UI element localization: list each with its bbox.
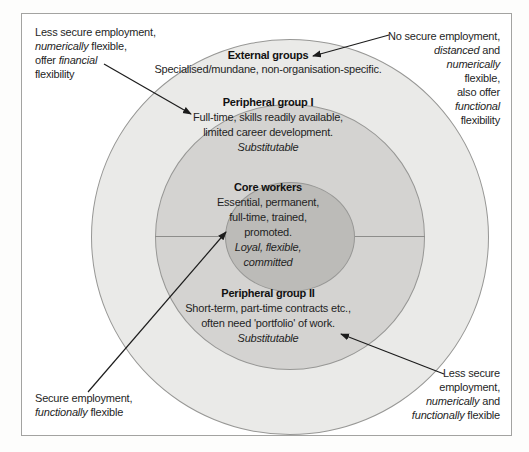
text-line: also offer — [388, 85, 500, 99]
peripheral-group-1-description: Full-time, skills readily available,limi… — [108, 110, 428, 155]
text-line: full-time, trained, — [188, 210, 348, 225]
annotation-top-right: No secure employment,distanced andnumeri… — [388, 29, 500, 127]
annotation-top-left: Less secure employment,numerically flexi… — [35, 25, 156, 81]
peripheral-group-2-block: Peripheral group II Short-term, part-tim… — [108, 286, 428, 346]
text-line: Substitutable — [108, 331, 428, 346]
text-line: numerically — [388, 57, 500, 71]
text-line: limited career development. — [108, 125, 428, 140]
peripheral-group-2-title: Peripheral group II — [108, 286, 428, 301]
text-line: flexible, — [388, 71, 500, 85]
text-line: Substitutable — [108, 140, 428, 155]
external-group-block: External groups Specialised/mundane, non… — [108, 48, 428, 76]
annotation-bottom-right: Less secureemployment,numerically andfun… — [412, 366, 500, 422]
external-group-title: External groups — [108, 48, 428, 62]
text-line: numerically and — [412, 394, 500, 408]
core-workers-title: Core workers — [188, 180, 348, 195]
text-line: flexibility — [388, 113, 500, 127]
peripheral-group-2-description: Short-term, part-time contracts etc.,oft… — [108, 301, 428, 346]
page: External groups Specialised/mundane, non… — [0, 0, 529, 452]
text-line: employment, — [412, 380, 500, 394]
text-line: flexibility — [35, 67, 156, 81]
text-line: Essential, permanent, — [188, 195, 348, 210]
text-line: Secure employment, — [35, 391, 132, 405]
text-line: Less secure — [412, 366, 500, 380]
text-line: Short-term, part-time contracts etc., — [108, 301, 428, 316]
text-line: functionally flexible — [35, 405, 132, 419]
core-workers-description: Essential, permanent,full-time, trained,… — [188, 195, 348, 270]
text-line: Full-time, skills readily available, — [108, 110, 428, 125]
text-line: Less secure employment, — [35, 25, 156, 39]
text-line: often need 'portfolio' of work. — [108, 316, 428, 331]
core-workers-block: Core workers Essential, permanent,full-t… — [188, 180, 348, 270]
text-line: No secure employment, — [388, 29, 500, 43]
annotation-bottom-left: Secure employment,functionally flexible — [35, 391, 132, 419]
text-line: functionally flexible — [412, 408, 500, 422]
text-line: numerically flexible, — [35, 39, 156, 53]
text-line: offer financial — [35, 53, 156, 67]
text-line: Loyal, flexible, — [188, 240, 348, 255]
peripheral-group-1-block: Peripheral group I Full-time, skills rea… — [108, 95, 428, 155]
peripheral-group-1-title: Peripheral group I — [108, 95, 428, 110]
text-line: promoted. — [188, 225, 348, 240]
text-line: Specialised/mundane, non-organisation-sp… — [108, 62, 428, 76]
text-line: distanced and — [388, 43, 500, 57]
text-line: functional — [388, 99, 500, 113]
external-group-description: Specialised/mundane, non-organisation-sp… — [108, 62, 428, 76]
text-line: committed — [188, 255, 348, 270]
